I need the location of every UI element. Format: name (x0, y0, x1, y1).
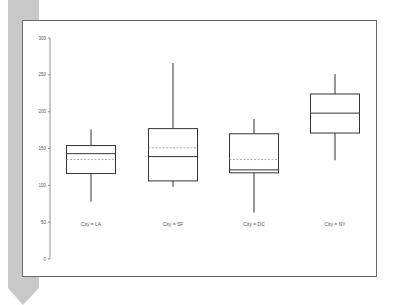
y-tick-label: 200 (38, 109, 46, 114)
y-tick-label: 250 (38, 72, 46, 77)
iqr-box (149, 129, 198, 181)
box-sf (149, 63, 198, 187)
y-axis: 050100150200250300 (38, 36, 50, 262)
category-label: City = DC (243, 221, 265, 227)
boxes (67, 63, 360, 213)
category-label: City = LA (81, 221, 102, 227)
box-plot: 050100150200250300 City = LACity = SFCit… (0, 0, 394, 305)
y-tick-label: 300 (38, 36, 46, 41)
y-tick-label: 100 (38, 183, 46, 188)
category-label: City = NY (324, 221, 346, 227)
box-la (67, 129, 116, 201)
y-tick-label: 0 (43, 257, 46, 262)
iqr-box (230, 134, 279, 173)
category-label: City = SF (163, 221, 184, 227)
box-dc (230, 119, 279, 213)
box-ny (311, 74, 360, 160)
x-axis-labels: City = LACity = SFCity = DCCity = NY (81, 221, 347, 227)
y-tick-label: 150 (38, 146, 46, 151)
y-tick-label: 50 (41, 220, 47, 225)
